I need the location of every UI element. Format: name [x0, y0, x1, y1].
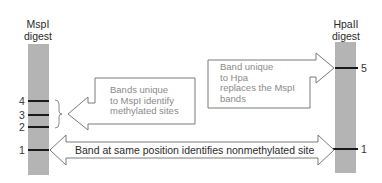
mspi-title-line1: MspI [18, 18, 58, 30]
mspi-callout-text: Bands unique to MspI identify methylated… [110, 85, 179, 117]
mspi-gel-lane [28, 44, 49, 175]
mspi-band-label-3: 3 [19, 109, 25, 121]
hpaii-title-line1: HpaII [325, 18, 367, 30]
hpaii-band-label-1: 1 [361, 143, 367, 155]
hpa-callout-text: Band unique to Hpa replaces the MspI ban… [220, 62, 295, 104]
methylation-gel-diagram: MspI digest HpaII digest 4 3 2 1 5 1 Ban… [0, 0, 382, 183]
mspi-title-line2: digest [18, 30, 58, 42]
shared-band-text: Band at same position identifies nonmeth… [75, 144, 314, 156]
brace-icon [55, 100, 62, 128]
hpaii-gel-lane [335, 42, 356, 173]
mspi-lane-title: MspI digest [18, 18, 58, 42]
hpa-callout-line4: bands [220, 94, 295, 105]
mspi-callout-line3: methylated sites [110, 106, 179, 117]
hpaii-band-label-5: 5 [361, 62, 367, 74]
mspi-band-label-4: 4 [19, 95, 25, 107]
mspi-band-label-2: 2 [19, 121, 25, 133]
hpa-callout-line3: replaces the MspI [220, 83, 295, 94]
hpaii-title-line2: digest [325, 30, 367, 42]
mspi-callout-line1: Bands unique [110, 85, 179, 96]
hpaii-lane-title: HpaII digest [325, 18, 367, 42]
hpa-callout-line1: Band unique [220, 62, 295, 73]
mspi-band-label-1: 1 [19, 144, 25, 156]
